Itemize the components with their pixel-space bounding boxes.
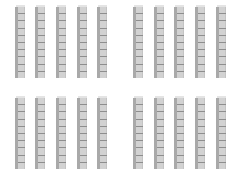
cube-divider <box>18 49 25 50</box>
cube-divider <box>157 49 164 50</box>
cube-divider <box>80 155 87 156</box>
cube-divider <box>80 56 87 57</box>
rod-top <box>134 5 143 7</box>
cube-divider <box>18 71 25 72</box>
cube-divider <box>100 35 107 36</box>
cube-divider <box>80 104 87 105</box>
cube-divider <box>157 140 164 141</box>
cube-divider <box>136 133 143 134</box>
cube-divider <box>157 119 164 120</box>
ten-rod <box>77 6 87 78</box>
cube-divider <box>18 133 25 134</box>
cube-divider <box>59 147 66 148</box>
cube-divider <box>59 104 66 105</box>
cube-divider <box>38 28 45 29</box>
cube-divider <box>219 119 226 120</box>
cube-divider <box>136 147 143 148</box>
cube-divider <box>157 13 164 14</box>
cube-divider <box>59 133 66 134</box>
cube-divider <box>38 162 45 163</box>
cube-divider <box>136 126 143 127</box>
rod-top <box>155 96 164 98</box>
rod-top <box>16 5 25 7</box>
cube-divider <box>100 42 107 43</box>
ten-rod <box>174 97 184 169</box>
cube-divider <box>18 28 25 29</box>
cube-divider <box>80 71 87 72</box>
cube-divider <box>18 126 25 127</box>
cube-divider <box>80 111 87 112</box>
cube-divider <box>177 13 184 14</box>
cube-divider <box>219 42 226 43</box>
cube-divider <box>219 155 226 156</box>
cube-divider <box>18 56 25 57</box>
cube-divider <box>100 64 107 65</box>
cube-divider <box>177 64 184 65</box>
cube-divider <box>198 71 205 72</box>
cube-divider <box>198 49 205 50</box>
ten-rod <box>154 97 164 169</box>
cube-divider <box>177 147 184 148</box>
cube-divider <box>177 162 184 163</box>
cube-divider <box>38 64 45 65</box>
cube-divider <box>38 119 45 120</box>
cube-divider <box>18 140 25 141</box>
cube-divider <box>198 20 205 21</box>
cube-divider <box>177 20 184 21</box>
cube-divider <box>59 35 66 36</box>
cube-divider <box>38 56 45 57</box>
cube-divider <box>38 111 45 112</box>
cube-divider <box>198 104 205 105</box>
cube-divider <box>198 126 205 127</box>
cube-divider <box>80 20 87 21</box>
rod-top <box>217 96 226 98</box>
cube-divider <box>198 162 205 163</box>
cube-divider <box>80 28 87 29</box>
cube-divider <box>59 162 66 163</box>
cube-divider <box>219 56 226 57</box>
cube-divider <box>59 155 66 156</box>
cube-divider <box>59 64 66 65</box>
cube-divider <box>18 20 25 21</box>
rod-top <box>78 5 87 7</box>
rod-top <box>98 96 107 98</box>
cube-divider <box>100 126 107 127</box>
cube-divider <box>100 104 107 105</box>
cube-divider <box>80 13 87 14</box>
cube-divider <box>80 42 87 43</box>
cube-divider <box>219 49 226 50</box>
cube-divider <box>198 111 205 112</box>
cube-divider <box>219 28 226 29</box>
cube-divider <box>18 13 25 14</box>
cube-divider <box>59 111 66 112</box>
cube-divider <box>38 71 45 72</box>
cube-divider <box>59 119 66 120</box>
cube-divider <box>198 133 205 134</box>
cube-divider <box>136 56 143 57</box>
cube-divider <box>38 49 45 50</box>
cube-divider <box>198 119 205 120</box>
cube-divider <box>219 162 226 163</box>
cube-divider <box>157 20 164 21</box>
cube-divider <box>157 56 164 57</box>
cube-divider <box>219 35 226 36</box>
ten-rod <box>216 6 226 78</box>
cube-divider <box>177 155 184 156</box>
cube-divider <box>177 56 184 57</box>
cube-divider <box>80 140 87 141</box>
rod-top <box>57 5 66 7</box>
rod-top <box>16 96 25 98</box>
cube-divider <box>38 104 45 105</box>
ten-rod <box>15 97 25 169</box>
cube-divider <box>18 35 25 36</box>
rod-top <box>36 5 45 7</box>
ten-rod <box>174 6 184 78</box>
cube-divider <box>80 49 87 50</box>
cube-divider <box>59 71 66 72</box>
cube-divider <box>219 111 226 112</box>
cube-divider <box>100 162 107 163</box>
cube-divider <box>80 119 87 120</box>
cube-divider <box>38 126 45 127</box>
cube-divider <box>177 104 184 105</box>
cube-divider <box>18 155 25 156</box>
